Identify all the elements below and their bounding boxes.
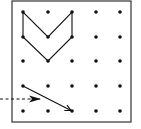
grid-dot — [21, 59, 25, 63]
grid-dot — [118, 35, 122, 39]
grid-dot — [118, 10, 122, 14]
grid-dot — [46, 109, 50, 113]
grid-dot — [46, 84, 50, 88]
grid-dot — [94, 35, 98, 39]
grid-dot — [118, 84, 122, 88]
diagram-canvas — [0, 0, 141, 129]
grid-dot — [70, 84, 74, 88]
grid-dot — [70, 59, 74, 63]
grid-dot — [118, 59, 122, 63]
chevron-shape — [23, 12, 72, 61]
grid-dot — [46, 10, 50, 14]
grid-dot — [94, 59, 98, 63]
grid-dot — [94, 84, 98, 88]
geoboard-diagram — [0, 0, 141, 129]
grid-dot — [118, 109, 122, 113]
grid-dot — [94, 109, 98, 113]
grid-dot — [21, 109, 25, 113]
grid-dot — [70, 109, 74, 113]
grid-dot — [94, 10, 98, 14]
solid-arrow — [23, 86, 71, 111]
